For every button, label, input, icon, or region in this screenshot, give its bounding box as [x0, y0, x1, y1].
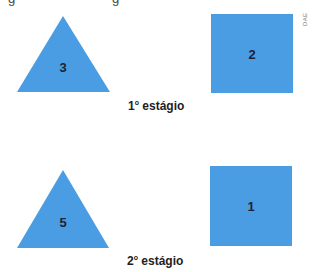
triangle-value: 5 — [59, 215, 66, 230]
square-value: 1 — [247, 199, 254, 214]
image-credit: DAE — [302, 13, 308, 26]
stage-1-triangle: 3 — [17, 16, 110, 92]
stage-2-label: 2o estágio — [127, 254, 183, 268]
stage-1-square: 2 — [211, 14, 293, 93]
square-value: 2 — [248, 47, 255, 62]
shapes-diagram: 3 2 5 1 — [0, 0, 322, 272]
stage-2-triangle: 5 — [17, 170, 109, 248]
stage-2-square: 1 — [210, 166, 292, 246]
triangle-value: 3 — [59, 60, 66, 75]
stage-1-label: 1o estágio — [128, 99, 184, 113]
